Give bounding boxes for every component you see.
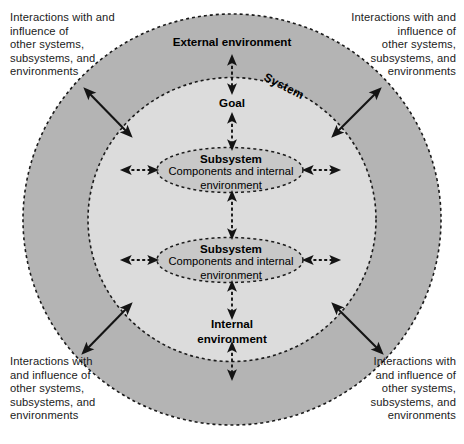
label-subsystem-2: Subsystem Components and internal enviro…	[146, 242, 316, 282]
label-subsystem-1: Subsystem Components and internal enviro…	[146, 152, 316, 192]
label-internal-environment: Internal environment	[162, 317, 302, 346]
subsystem-1-detail: Components and internal environment	[146, 165, 316, 192]
label-external-environment: External environment	[132, 35, 332, 49]
subsystem-1-title: Subsystem	[146, 152, 316, 165]
subsystem-2-title: Subsystem	[146, 242, 316, 255]
subsystem-2-detail: Components and internal environment	[146, 255, 316, 282]
label-goal: Goal	[182, 96, 282, 110]
diagram-canvas: Interactions with and influence of other…	[0, 0, 464, 444]
corner-label-bottom-left: Interactions with and influence of other…	[10, 355, 160, 423]
corner-label-bottom-right: Interactions with and influence of other…	[306, 355, 456, 423]
